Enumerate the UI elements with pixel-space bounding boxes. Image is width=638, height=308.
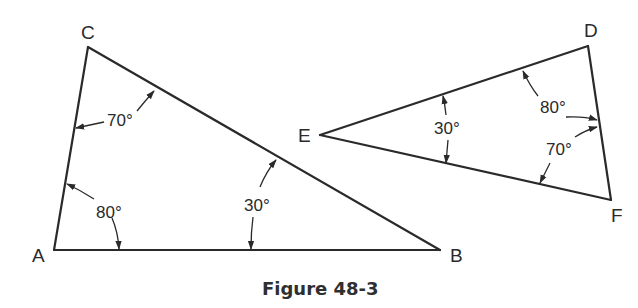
figure-caption: Figure 48-3 <box>262 278 379 299</box>
triangle-abc: 70° 80° 30° C A B <box>32 22 463 266</box>
angle-c-arrow-right <box>137 91 154 111</box>
angle-e-arrow-down <box>446 140 448 163</box>
angle-a-arrow-down <box>112 218 119 249</box>
vertex-d-label: D <box>584 20 598 41</box>
angle-f-arrow-down <box>540 163 550 183</box>
angle-a-label: 80° <box>96 203 122 222</box>
angle-d-label: 80° <box>540 98 566 117</box>
angle-c-arrow-left <box>76 122 104 128</box>
figure-canvas: 70° 80° 30° C A B 30° 80° 70° D E F Figu… <box>0 0 638 308</box>
side-df <box>588 46 611 200</box>
angle-f-arrow-right <box>575 127 597 137</box>
vertex-e-label: E <box>298 125 311 146</box>
side-ac <box>54 47 88 250</box>
angle-b-arrow-down <box>251 217 253 249</box>
vertex-c-label: C <box>81 22 95 43</box>
vertex-b-label: B <box>450 245 463 266</box>
angle-b-label: 30° <box>244 196 270 215</box>
angle-e-label: 30° <box>434 119 460 138</box>
angle-d-arrow-right <box>566 117 597 120</box>
angle-f-label: 70° <box>546 140 572 159</box>
vertex-f-label: F <box>611 205 623 226</box>
angle-d-arrow-up <box>523 71 538 96</box>
vertex-a-label: A <box>32 245 45 266</box>
angle-c-label: 70° <box>107 111 133 130</box>
side-cb <box>88 47 440 250</box>
angle-e-arrow-up <box>443 96 446 115</box>
angle-a-arrow-up <box>67 184 94 199</box>
angle-b-arrow-up <box>260 160 276 187</box>
